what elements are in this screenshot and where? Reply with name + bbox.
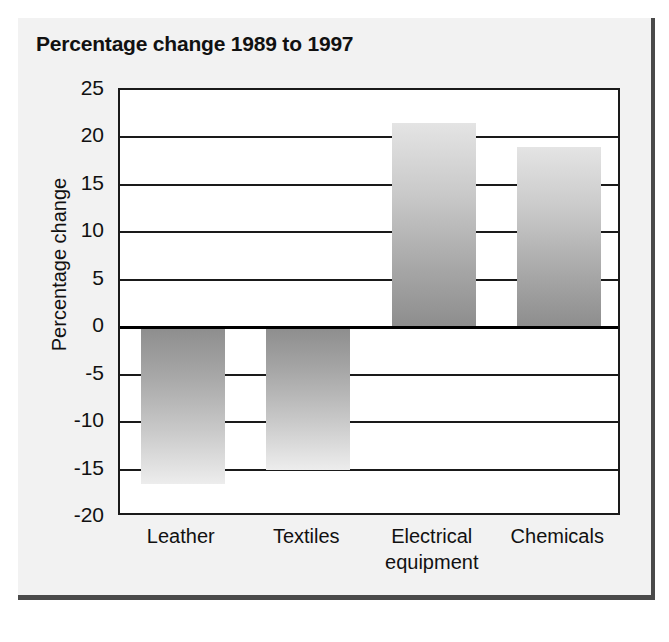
y-tick-label: 5	[92, 266, 104, 290]
bar	[141, 327, 225, 484]
y-tick-label: -10	[74, 408, 104, 432]
x-axis-tick-labels: LeatherTextilesElectricalequipmentChemic…	[118, 523, 620, 593]
chart-title: Percentage change 1989 to 1997	[36, 32, 353, 56]
y-tick-label: -5	[85, 361, 104, 385]
plot-inner	[120, 90, 618, 513]
x-tick-label-line1: Electrical	[369, 523, 495, 549]
x-tick-label: Chemicals	[495, 523, 621, 549]
x-tick-label-line1: Textiles	[244, 523, 370, 549]
bar	[266, 327, 350, 469]
y-axis-tick-labels: 2520151050-5-10-15-20	[18, 88, 114, 515]
y-tick-label: -20	[74, 503, 104, 527]
y-tick-label: 0	[92, 313, 104, 337]
y-tick-label: 20	[81, 123, 104, 147]
x-tick-label: Electricalequipment	[369, 523, 495, 575]
x-tick-label-line1: Leather	[118, 523, 244, 549]
bar	[517, 147, 601, 327]
y-tick-label: 25	[81, 76, 104, 100]
figure-panel: Percentage change 1989 to 1997 Percentag…	[18, 18, 655, 600]
x-tick-label-line1: Chemicals	[495, 523, 621, 549]
y-tick-label: 10	[81, 218, 104, 242]
x-tick-label: Textiles	[244, 523, 370, 549]
plot-area	[118, 88, 620, 515]
y-tick-label: 15	[81, 171, 104, 195]
x-tick-label-line2: equipment	[369, 549, 495, 575]
bar	[392, 123, 476, 327]
y-tick-label: -15	[74, 456, 104, 480]
x-tick-label: Leather	[118, 523, 244, 549]
zero-axis-line	[120, 326, 618, 329]
gridline	[120, 136, 618, 138]
